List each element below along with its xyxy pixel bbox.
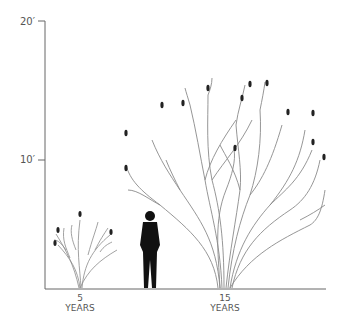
small-tree-icon [54, 220, 117, 288]
growth-diagram [0, 0, 345, 326]
large-tree-buds [124, 80, 325, 171]
person-silhouette-icon [140, 211, 160, 288]
axes [38, 21, 326, 289]
